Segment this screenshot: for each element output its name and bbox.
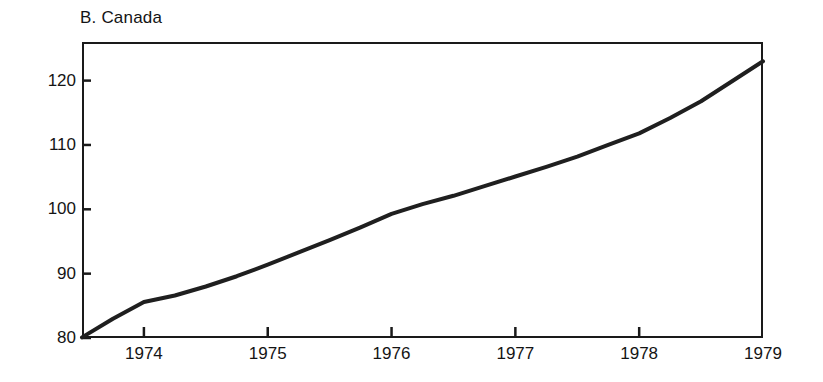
y-tick-label: 100 bbox=[30, 199, 76, 219]
x-tick-label: 1977 bbox=[475, 344, 555, 364]
data-series-line bbox=[82, 61, 763, 337]
y-axis-ticks bbox=[82, 81, 91, 338]
chart-figure: B. Canada 8090100110120 1974197519761977… bbox=[0, 0, 823, 382]
x-tick-label: 1976 bbox=[352, 344, 432, 364]
y-tick-label: 110 bbox=[30, 135, 76, 155]
x-tick-label: 1979 bbox=[723, 344, 803, 364]
y-tick-label: 80 bbox=[30, 328, 76, 348]
chart-canvas bbox=[0, 0, 823, 382]
y-tick-label: 90 bbox=[30, 264, 76, 284]
x-tick-label: 1974 bbox=[104, 344, 184, 364]
x-axis-ticks bbox=[144, 327, 639, 338]
y-tick-label: 120 bbox=[30, 71, 76, 91]
x-tick-label: 1975 bbox=[228, 344, 308, 364]
x-tick-label: 1978 bbox=[599, 344, 679, 364]
